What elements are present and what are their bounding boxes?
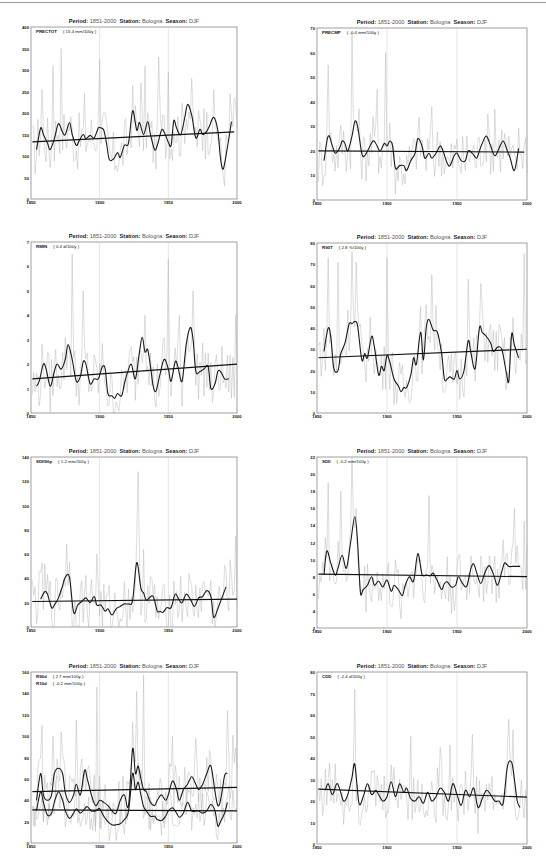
chart-precmp: Period: 1851-2000 Station: Bologna Seaso… bbox=[317, 28, 527, 200]
y-tick-label: 400 bbox=[22, 25, 31, 30]
y-tick-label: 120 bbox=[22, 479, 31, 484]
y-tick-label: 100 bbox=[22, 154, 31, 159]
chart-title: Period: 1851-2000 Station: Bologna Seaso… bbox=[357, 19, 487, 25]
chart-rmin: Period: 1851-2000 Station: Bologna Seaso… bbox=[31, 242, 237, 413]
y-tick-label: 6 bbox=[313, 591, 317, 596]
x-tick-label: 1900 bbox=[382, 629, 391, 634]
y-tick-label: 5 bbox=[27, 288, 31, 293]
chart-legend: SDII90p( 1.2 mm/100y ) bbox=[36, 458, 89, 465]
y-tick-label: 22 bbox=[310, 455, 317, 460]
y-tick-label: 20 bbox=[310, 148, 317, 153]
y-tick-label: 140 bbox=[22, 455, 31, 460]
chart-prectot: Period: 1851-2000 Station: Bologna Seaso… bbox=[31, 27, 237, 199]
x-tick-label: 2000 bbox=[232, 844, 241, 849]
y-tick-label: 140 bbox=[22, 691, 31, 696]
chart-legend: PRECMP( -0.4 mm/100y ) bbox=[322, 29, 379, 36]
y-tick-label: 60 bbox=[24, 552, 31, 557]
x-tick-label: 2000 bbox=[522, 201, 531, 206]
y-tick-label: 60 bbox=[310, 50, 317, 55]
y-tick-label: 10 bbox=[310, 173, 317, 178]
y-tick-label: 40 bbox=[310, 326, 317, 331]
chart-legend: RMIN( 0.4 d/100y ) bbox=[36, 243, 79, 250]
chart-legend: SDII( -0.2 mm/100y ) bbox=[322, 458, 369, 465]
y-tick-label: 250 bbox=[22, 89, 31, 94]
chart-legend: R90d( 2.7 mm/100y )R10d( -0.2 mm/100y ) bbox=[36, 673, 85, 687]
y-tick-label: 100 bbox=[22, 503, 31, 508]
y-tick-label: 3 bbox=[27, 337, 31, 342]
chart-sdii90p: Period: 1851-2000 Station: Bologna Seaso… bbox=[31, 457, 237, 627]
y-tick-label: 20 bbox=[310, 368, 317, 373]
y-tick-label: 50 bbox=[310, 75, 317, 80]
chart-title: Period: 1851-2000 Station: Bologna Seaso… bbox=[69, 448, 199, 454]
plot-area bbox=[317, 672, 527, 844]
y-tick-label: 60 bbox=[24, 776, 31, 781]
y-tick-label: 40 bbox=[310, 756, 317, 761]
y-tick-label: 160 bbox=[22, 670, 31, 675]
y-tick-label: 14 bbox=[310, 523, 317, 528]
chart-title: Period: 1851-2000 Station: Bologna Seaso… bbox=[69, 233, 199, 239]
plot-area bbox=[317, 28, 527, 200]
y-tick-label: 80 bbox=[310, 241, 317, 246]
x-tick-label: 1950 bbox=[452, 201, 461, 206]
y-tick-label: 30 bbox=[310, 347, 317, 352]
y-tick-label: 80 bbox=[310, 670, 317, 675]
y-tick-label: 16 bbox=[310, 506, 317, 511]
x-tick-label: 1900 bbox=[95, 200, 104, 205]
top-border-line bbox=[0, 2, 546, 3]
y-tick-label: 6 bbox=[27, 264, 31, 269]
x-tick-label: 1850 bbox=[312, 629, 321, 634]
y-tick-label: 4 bbox=[27, 313, 31, 318]
chart-title: Period: 1851-2000 Station: Bologna Seaso… bbox=[357, 234, 487, 240]
chart-r90d-r10d: Period: 1851-2000 Station: Bologna Seaso… bbox=[31, 672, 237, 843]
x-tick-label: 1850 bbox=[312, 414, 321, 419]
y-tick-label: 60 bbox=[310, 283, 317, 288]
plot-area bbox=[31, 457, 237, 627]
y-tick-label: 300 bbox=[22, 68, 31, 73]
x-tick-label: 2000 bbox=[522, 414, 531, 419]
x-tick-label: 1900 bbox=[95, 414, 104, 419]
chart-r90t: Period: 1851-2000 Station: Bologna Seaso… bbox=[317, 243, 527, 413]
x-tick-label: 1950 bbox=[164, 628, 173, 633]
y-tick-label: 40 bbox=[24, 576, 31, 581]
y-tick-label: 50 bbox=[310, 304, 317, 309]
x-tick-label: 1850 bbox=[26, 200, 35, 205]
y-tick-label: 60 bbox=[310, 713, 317, 718]
y-tick-label: 18 bbox=[310, 489, 317, 494]
y-tick-label: 30 bbox=[310, 777, 317, 782]
y-tick-label: 20 bbox=[24, 819, 31, 824]
chart-title: Period: 1851-2000 Station: Bologna Seaso… bbox=[69, 18, 199, 24]
y-tick-label: 7 bbox=[27, 240, 31, 245]
y-tick-label: 1 bbox=[27, 386, 31, 391]
chart-title: Period: 1851-2000 Station: Bologna Seaso… bbox=[357, 448, 487, 454]
chart-sdii: Period: 1851-2000 Station: Bologna Seaso… bbox=[317, 457, 527, 628]
y-tick-label: 10 bbox=[310, 820, 317, 825]
y-tick-label: 2 bbox=[27, 362, 31, 367]
y-tick-label: 50 bbox=[310, 734, 317, 739]
x-tick-label: 1850 bbox=[26, 414, 35, 419]
x-tick-label: 1850 bbox=[26, 628, 35, 633]
x-tick-label: 1950 bbox=[452, 414, 461, 419]
y-tick-label: 70 bbox=[310, 691, 317, 696]
plot-area bbox=[31, 242, 237, 413]
y-tick-label: 8 bbox=[313, 574, 317, 579]
chart-legend: R90T( 2.8 %/100y ) bbox=[322, 244, 366, 251]
x-tick-label: 2000 bbox=[522, 845, 531, 850]
y-tick-label: 20 bbox=[24, 600, 31, 605]
plot-area bbox=[317, 457, 527, 628]
y-tick-label: 150 bbox=[22, 132, 31, 137]
x-tick-label: 1950 bbox=[164, 200, 173, 205]
x-tick-label: 1850 bbox=[312, 201, 321, 206]
x-tick-label: 2000 bbox=[232, 200, 241, 205]
y-tick-label: 200 bbox=[22, 111, 31, 116]
y-tick-label: 40 bbox=[310, 99, 317, 104]
x-tick-label: 1900 bbox=[95, 844, 104, 849]
chart-legend: CDD( -2.4 d/100y ) bbox=[322, 673, 365, 680]
x-tick-label: 1950 bbox=[164, 844, 173, 849]
x-tick-label: 1950 bbox=[164, 414, 173, 419]
y-tick-label: 20 bbox=[310, 799, 317, 804]
x-tick-label: 2000 bbox=[522, 629, 531, 634]
y-tick-label: 4 bbox=[313, 608, 317, 613]
y-tick-label: 40 bbox=[24, 798, 31, 803]
y-tick-label: 20 bbox=[310, 472, 317, 477]
x-tick-label: 1950 bbox=[452, 629, 461, 634]
